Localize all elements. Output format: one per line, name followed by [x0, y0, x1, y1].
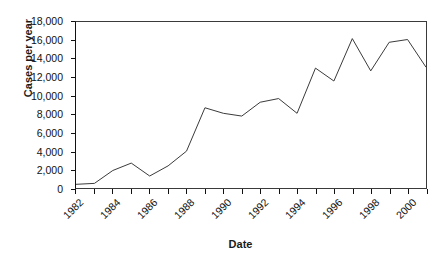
- x-axis-title: Date: [0, 238, 441, 250]
- y-tick-label: 4,000: [37, 146, 63, 158]
- plot-area: [75, 21, 427, 189]
- y-tick-label: 10,000: [31, 90, 63, 102]
- y-tick-label: 2,000: [37, 164, 63, 176]
- y-axis-tick-labels: 02,0004,0006,0008,00010,00012,00014,0001…: [0, 0, 68, 200]
- y-tick-label: 6,000: [37, 127, 63, 139]
- x-axis-tick-labels: 1982198419861988199019921994199619982000: [0, 192, 441, 244]
- line-chart: Cases per year 02,0004,0006,0008,00010,0…: [0, 0, 441, 264]
- y-tick-label: 12,000: [31, 71, 63, 83]
- series-line-cases-per-year: [76, 39, 426, 185]
- y-tick-label: 18,000: [31, 15, 63, 27]
- y-tick-label: 16,000: [31, 34, 63, 46]
- data-line-svg: [76, 22, 426, 188]
- y-tick-label: 14,000: [31, 52, 63, 64]
- y-tick-label: 8,000: [37, 108, 63, 120]
